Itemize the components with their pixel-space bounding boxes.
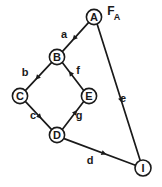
edge-label-d: d bbox=[87, 154, 94, 166]
edge-d bbox=[64, 139, 135, 166]
node-B[interactable]: B bbox=[49, 49, 64, 64]
edge-label-g: g bbox=[76, 109, 83, 121]
edge-label-f: f bbox=[76, 64, 80, 76]
edge-line-d bbox=[64, 139, 135, 166]
edge-b bbox=[25, 62, 51, 90]
node-label-A: A bbox=[90, 11, 98, 23]
source-label-subscript: A bbox=[114, 12, 121, 22]
node-A[interactable]: A bbox=[86, 9, 101, 24]
node-E[interactable]: E bbox=[81, 88, 96, 103]
signal-flow-graph-figure: ABCEDI abfcged F A bbox=[0, 0, 162, 187]
node-D[interactable]: D bbox=[49, 127, 64, 142]
edge-e bbox=[97, 24, 140, 160]
node-label-I: I bbox=[141, 162, 144, 174]
edge-label-e: e bbox=[120, 92, 126, 104]
node-I[interactable]: I bbox=[135, 160, 151, 176]
edge-label-b: b bbox=[22, 66, 29, 78]
edge-f bbox=[62, 62, 83, 90]
node-label-C: C bbox=[16, 90, 24, 102]
edge-line-e bbox=[97, 24, 140, 160]
edge-label-c: c bbox=[30, 109, 36, 121]
edge-line-f bbox=[62, 62, 83, 90]
node-label-B: B bbox=[53, 51, 61, 63]
source-label-group: F A bbox=[107, 4, 120, 22]
node-label-D: D bbox=[53, 129, 61, 141]
node-label-E: E bbox=[85, 90, 92, 102]
node-C[interactable]: C bbox=[12, 88, 27, 103]
graph-canvas: ABCEDI abfcged F A bbox=[0, 0, 162, 187]
edge-label-a: a bbox=[61, 28, 68, 40]
nodes-layer: ABCEDI bbox=[12, 9, 151, 176]
edge-labels-layer: abfcged bbox=[22, 28, 126, 166]
